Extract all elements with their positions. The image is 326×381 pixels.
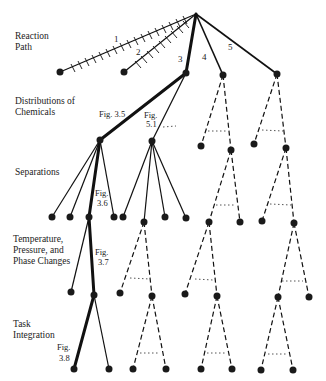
- hatched-path-2: [124, 14, 196, 72]
- fig-ref-3-7: Fig. 3.7: [95, 247, 109, 267]
- svg-text:3.6: 3.6: [97, 198, 108, 208]
- fig-ref-3-6: Fig. 3.6: [95, 188, 108, 208]
- level-label-temperature-pressure-phase: Temperature, Pressure, and Phase Changes: [13, 234, 71, 266]
- synthesis-tree-diagram: Reaction Path Distributions of Chemicals…: [0, 0, 326, 381]
- branch-number-2: 2: [136, 47, 141, 57]
- svg-text:3.7: 3.7: [98, 257, 109, 267]
- level-label-task-integration: Task Integration: [13, 319, 55, 340]
- svg-text:Integration: Integration: [13, 330, 55, 340]
- fig-ref-3-8: Fig. 3.8: [57, 342, 70, 363]
- svg-text:Fig.: Fig.: [95, 247, 108, 257]
- branch-number-1: 1: [114, 34, 119, 44]
- level-label-distributions: Distributions of Chemicals: [15, 96, 76, 117]
- fig-ref-5-1: Fig. 5.1: [144, 110, 157, 129]
- svg-text:Separations: Separations: [15, 167, 60, 177]
- edge-fig-3-5: [100, 73, 186, 140]
- branch-number-5: 5: [228, 42, 233, 52]
- branch-3: [186, 14, 196, 73]
- svg-text:3.8: 3.8: [59, 353, 70, 363]
- svg-text:Chemicals: Chemicals: [15, 107, 55, 117]
- svg-text:Fig.: Fig.: [95, 188, 108, 198]
- level-label-separations: Separations: [15, 167, 60, 177]
- svg-text:Distributions of: Distributions of: [15, 96, 76, 106]
- hatched-path-1: [60, 14, 196, 72]
- svg-text:Phase Changes: Phase Changes: [13, 256, 71, 266]
- svg-text:Pressure, and: Pressure, and: [13, 245, 64, 255]
- fig-ref-3-5: Fig. 3.5: [99, 109, 125, 119]
- svg-text:Path: Path: [15, 42, 32, 52]
- branch-5: [196, 14, 277, 74]
- svg-text:Temperature,: Temperature,: [13, 234, 63, 244]
- svg-text:Fig.: Fig.: [57, 342, 70, 352]
- svg-text:5.1: 5.1: [146, 119, 157, 129]
- svg-text:Task: Task: [13, 319, 31, 329]
- svg-text:Reaction: Reaction: [15, 31, 49, 41]
- branch-number-4: 4: [202, 52, 207, 62]
- branch-number-3: 3: [178, 54, 183, 64]
- level-label-reaction-path: Reaction Path: [15, 31, 49, 52]
